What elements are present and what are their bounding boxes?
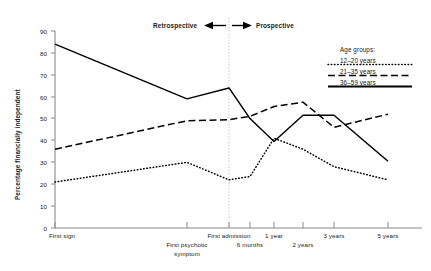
x-tick-1-year: 1 year xyxy=(254,232,294,239)
y-axis-ticks xyxy=(51,31,55,228)
y-tick-80: 80 xyxy=(33,50,47,57)
y-axis-title: Percentage financially independent xyxy=(14,89,21,200)
series-line-36-59 xyxy=(55,44,388,161)
y-tick-90: 90 xyxy=(33,28,47,35)
x-axis-ticks xyxy=(55,222,388,228)
y-tick-30: 30 xyxy=(33,159,47,166)
retrospective-arrow-icon xyxy=(204,22,226,29)
y-tick-70: 70 xyxy=(33,72,47,79)
line-chart-plot xyxy=(0,0,431,271)
prospective-arrow-icon xyxy=(232,22,252,29)
y-tick-40: 40 xyxy=(33,137,47,144)
x-tick-2-years: 2 years xyxy=(283,241,323,248)
legend-label-36-59: 36–59 years xyxy=(340,79,376,86)
x-tick-symptom: symptom xyxy=(153,250,221,257)
retrospective-label: Retrospective xyxy=(153,22,197,29)
y-tick-20: 20 xyxy=(33,181,47,188)
legend-title: Age groups: xyxy=(340,46,375,53)
x-tick-5-years: 5 years xyxy=(368,232,408,239)
series-line-21-35 xyxy=(55,102,388,149)
legend-label-12-20: 12–20 years xyxy=(340,57,376,64)
series-line-12-20 xyxy=(55,138,388,182)
x-tick-3-years: 3 years xyxy=(314,232,354,239)
y-tick-10: 10 xyxy=(33,203,47,210)
prospective-label: Prospective xyxy=(256,22,294,29)
y-tick-0: 0 xyxy=(33,225,47,232)
y-tick-50: 50 xyxy=(33,115,47,122)
x-tick-first-psychotic: First psychotic xyxy=(153,241,221,248)
y-tick-60: 60 xyxy=(33,94,47,101)
legend-label-21-35: 21–35 years xyxy=(340,68,376,75)
chart-figure: Percentage financially independent 90 80… xyxy=(0,0,431,271)
x-tick-first-sign: First sign xyxy=(38,232,86,239)
x-tick-6-months: 6 months xyxy=(224,241,276,248)
